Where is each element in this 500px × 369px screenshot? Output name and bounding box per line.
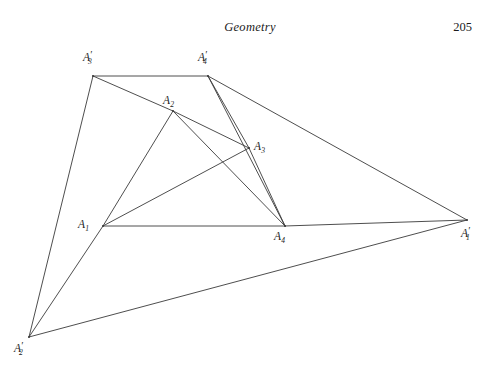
vertex-point-A1p — [466, 219, 468, 221]
vertex-point-A3p — [92, 75, 94, 77]
vertex-label-A1p: A′1 — [461, 228, 474, 240]
vertex-point-A1 — [102, 225, 104, 227]
edge-A1-A3 — [103, 148, 249, 226]
vertex-label-A3: A3 — [254, 141, 265, 153]
vertex-label-A4: A4 — [274, 231, 285, 243]
edge-A1p-A2p — [29, 220, 467, 337]
edge-A3-A4 — [249, 148, 285, 226]
edge-A4p-A1p — [208, 76, 467, 220]
vertex-point-A4p — [207, 75, 209, 77]
edge-A1-A2 — [103, 111, 173, 226]
edge-layer — [29, 76, 467, 337]
edge-A4-A1p — [285, 220, 467, 226]
edge-A2-A3 — [173, 111, 249, 148]
edge-A3p-A2 — [93, 76, 173, 111]
figure-canvas — [0, 0, 500, 369]
geometry-figure: A1A2A3A4A′1A′2A′3A′4 — [0, 0, 500, 369]
edge-A2-A4 — [173, 111, 285, 226]
vertex-label-A2p: A′2 — [14, 343, 27, 355]
vertex-point-A4 — [284, 225, 286, 227]
vertex-point-A3 — [248, 147, 250, 149]
vertex-label-A4p: A′4 — [198, 52, 211, 64]
vertex-point-A2p — [28, 336, 30, 338]
vertex-point-A2 — [172, 110, 174, 112]
edge-A2p-A3p — [29, 76, 93, 337]
vertex-label-A2: A2 — [163, 95, 174, 107]
edge-A4p-A4 — [208, 76, 285, 226]
edge-A4p-A3 — [208, 76, 249, 148]
vertex-layer — [28, 75, 468, 338]
vertex-label-A1: A1 — [78, 219, 89, 231]
book-page: Geometry 205 A1A2A3A4A′1A′2A′3A′4 — [0, 0, 500, 369]
vertex-label-A3p: A′3 — [83, 52, 96, 64]
